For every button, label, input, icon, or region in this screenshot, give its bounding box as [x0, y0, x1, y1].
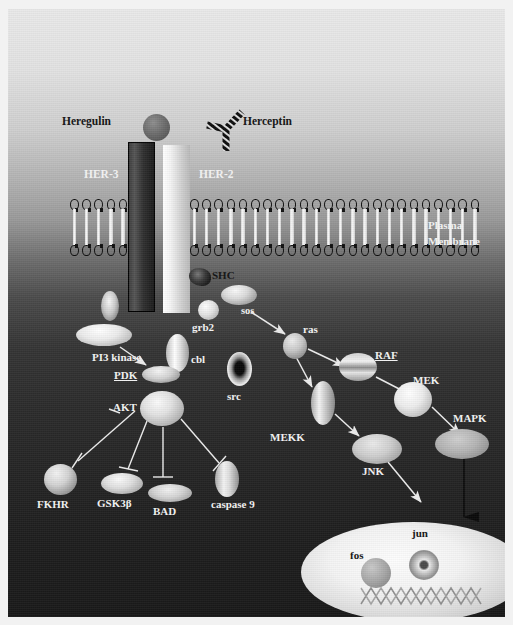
grb2-label: grb2 [192, 322, 214, 333]
mapk-label: MAPK [453, 413, 487, 424]
jnk-protein[interactable] [352, 434, 402, 464]
her2-label: HER-2 [199, 169, 234, 181]
caspase9-protein[interactable] [215, 461, 239, 497]
pi3k-upper-blob [101, 291, 119, 321]
edge-akt-bad-inhibition [153, 427, 173, 477]
mek-label: MEK [413, 375, 439, 386]
dna-zigzag [361, 584, 486, 610]
edge-akt-fkhr-inhibition [72, 411, 135, 468]
akt-label: AKT [113, 402, 137, 413]
sos-label: sos [241, 306, 254, 317]
herceptin-label: Herceptin [243, 116, 292, 128]
raf-protein[interactable] [339, 353, 377, 381]
sos-protein[interactable] [221, 285, 257, 305]
gsk3b-protein[interactable] [101, 473, 143, 494]
shc-label: SHC [212, 270, 235, 281]
src-label: src [227, 391, 241, 402]
bad-label: BAD [153, 506, 176, 517]
edge-mekk-jnk [335, 414, 359, 436]
cbl-label: cbl [191, 354, 205, 365]
pi3-kinase-label: PI3 kinase [92, 352, 141, 363]
pathway-figure: Heregulin Herceptin HER-3 HER-2 Plasma M… [0, 0, 513, 625]
shc-protein[interactable] [189, 268, 211, 286]
raf-label: RAF [375, 350, 398, 361]
ras-protein[interactable] [283, 333, 307, 359]
her3-label: HER-3 [84, 169, 119, 181]
gsk3b-label: GSK3β [97, 498, 132, 509]
grb2-protein[interactable] [198, 300, 219, 320]
edge-jnk-nucleus [388, 462, 421, 502]
pdk-protein[interactable] [142, 366, 180, 383]
heregulin-label: Heregulin [62, 116, 111, 128]
mek-protein[interactable] [394, 382, 432, 417]
plasma-membrane-label-line1: Plasma [428, 220, 462, 231]
jun-protein[interactable] [409, 550, 439, 580]
ras-label: ras [303, 324, 318, 335]
fkhr-protein[interactable] [44, 464, 77, 495]
fkhr-label: FKHR [37, 499, 69, 510]
mapk-protein[interactable] [435, 429, 489, 459]
edge-akt-gsk3b-inhibition [119, 421, 147, 471]
edge-ras-mekk [295, 355, 312, 387]
jnk-label: JNK [362, 466, 384, 477]
bad-protein[interactable] [148, 484, 192, 502]
edge-sos-ras [251, 312, 285, 334]
src-protein[interactable] [227, 352, 252, 386]
fos-label: fos [350, 550, 363, 561]
plasma-membrane-label-line2: Membrane [428, 236, 480, 247]
mekk-label: MEKK [270, 432, 305, 443]
akt-protein[interactable] [140, 391, 184, 426]
caspase9-label: caspase 9 [211, 499, 255, 510]
pi3-kinase-protein[interactable] [76, 324, 132, 346]
jun-label: jun [412, 528, 428, 539]
mekk-protein[interactable] [311, 381, 335, 425]
pathway-panel: Heregulin Herceptin HER-3 HER-2 Plasma M… [8, 9, 505, 617]
pdk-label: PDK [114, 370, 137, 381]
